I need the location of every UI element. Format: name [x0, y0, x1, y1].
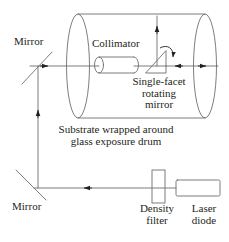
label-rotating-mirror-line3: mirror	[112, 99, 206, 111]
label-mirror-bottom: Mirror	[12, 201, 41, 213]
laser-diode	[176, 180, 220, 196]
label-laser-diode-line1: Laser	[184, 203, 224, 215]
label-density-filter-line2: filter	[134, 215, 180, 227]
label-rotating-mirror-line1: Single-facet	[112, 76, 206, 88]
mirror-bottom	[16, 170, 46, 200]
label-collimator: Collimator	[92, 38, 140, 50]
label-laser-diode-line2: diode	[184, 215, 224, 227]
label-density-filter-line1: Density	[134, 203, 180, 215]
rotating-mirror	[146, 51, 166, 73]
label-mirror-top: Mirror	[14, 36, 43, 48]
density-filter	[152, 170, 165, 203]
label-exposure-drum-line2: glass exposure drum	[42, 136, 190, 148]
label-exposure-drum-line1: Substrate wrapped around	[42, 124, 190, 136]
label-rotating-mirror: Single-facet rotating mirror	[112, 76, 206, 111]
label-laser-diode: Laser diode	[184, 203, 224, 226]
optical-system-diagram: Mirror Collimator Single-facet rotating …	[0, 0, 229, 242]
label-exposure-drum: Substrate wrapped around glass exposure …	[42, 124, 190, 147]
collimator	[95, 57, 139, 73]
mirror-top	[22, 52, 52, 84]
label-density-filter: Density filter	[134, 203, 180, 226]
